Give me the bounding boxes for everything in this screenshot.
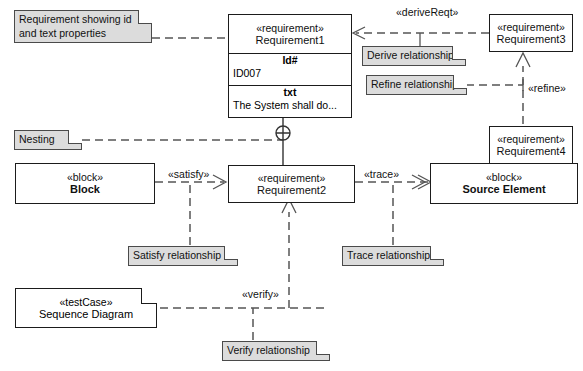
- node-source-element[interactable]: «block» Source Element: [430, 163, 578, 204]
- note-fold-icon: [316, 341, 330, 355]
- note-satisfy-relationship[interactable]: Satisfy relationship: [128, 246, 238, 266]
- note-derive-text: Derive relationship: [367, 49, 454, 61]
- node-requirement3[interactable]: «requirement» Requirement3: [489, 14, 573, 52]
- requirement3-name: Requirement3: [490, 33, 572, 46]
- note-trace-text: Trace relationship: [347, 249, 430, 261]
- edge-label-verify: «verify»: [241, 288, 280, 300]
- requirement1-name: Requirement1: [229, 34, 351, 47]
- requirement1-stereotype: «requirement»: [229, 22, 351, 34]
- node-requirement4[interactable]: «requirement» Requirement4: [489, 126, 573, 164]
- requirement4-stereotype: «requirement»: [490, 133, 572, 145]
- requirement4-name: Requirement4: [490, 145, 572, 158]
- note-fold-icon: [224, 246, 238, 260]
- requirement2-stereotype: «requirement»: [229, 172, 354, 184]
- note-fold-icon: [138, 10, 152, 24]
- edge-label-trace: «trace»: [363, 168, 400, 180]
- note-verify-text: Verify relationship: [227, 344, 310, 356]
- compartment-txt-title: txt: [229, 86, 351, 99]
- node-test-case[interactable]: «testCase» Sequence Diagram: [15, 288, 157, 328]
- requirement1-compartment-id: Id# ID007: [229, 53, 351, 85]
- edge-label-refine: «refine»: [527, 82, 567, 94]
- note-nesting-text: Nesting: [19, 133, 55, 145]
- sysml-requirements-diagram: .dash{stroke:#555;stroke-width:1.5;fill:…: [0, 0, 583, 371]
- note-fold-icon: [68, 130, 82, 144]
- test-case-name: Sequence Diagram: [16, 308, 156, 321]
- note-verify-relationship[interactable]: Verify relationship: [222, 341, 330, 361]
- note-derive-relationship[interactable]: Derive relationship: [362, 46, 466, 66]
- source-element-name: Source Element: [431, 183, 577, 196]
- note-requirement-properties-text: Requirement showing id and text properti…: [19, 13, 132, 39]
- note-refine-relationship[interactable]: Refine relationship: [366, 75, 467, 95]
- test-case-fold-icon: [141, 288, 157, 304]
- block-stereotype: «block»: [16, 171, 154, 183]
- requirement2-name: Requirement2: [229, 184, 354, 197]
- test-case-stereotype: «testCase»: [16, 296, 156, 308]
- note-requirement-properties[interactable]: Requirement showing id and text properti…: [14, 10, 152, 43]
- node-block[interactable]: «block» Block: [15, 163, 155, 204]
- arrow-refine-triangle: [516, 53, 530, 67]
- edge-label-derive-reqt: «deriveReqt»: [395, 6, 459, 18]
- compartment-id-value: ID007: [229, 67, 351, 80]
- compartment-id-title: Id#: [229, 54, 351, 67]
- note-refine-text: Refine relationship: [371, 78, 458, 90]
- requirement1-compartment-txt: txt The System shall do...: [229, 85, 351, 117]
- source-element-stereotype: «block»: [431, 171, 577, 183]
- edge-label-satisfy: «satisfy»: [167, 168, 210, 180]
- node-requirement2[interactable]: «requirement» Requirement2: [228, 165, 355, 203]
- note-fold-icon: [430, 246, 444, 260]
- block-name: Block: [16, 183, 154, 196]
- note-fold-icon: [453, 75, 467, 89]
- node-requirement1[interactable]: «requirement» Requirement1 Id# ID007 txt…: [228, 14, 352, 118]
- note-fold-icon: [452, 46, 466, 60]
- note-nesting[interactable]: Nesting: [14, 130, 82, 150]
- note-satisfy-text: Satisfy relationship: [133, 249, 221, 261]
- note-trace-relationship[interactable]: Trace relationship: [342, 246, 444, 266]
- compartment-txt-value: The System shall do...: [229, 99, 351, 112]
- requirement3-stereotype: «requirement»: [490, 21, 572, 33]
